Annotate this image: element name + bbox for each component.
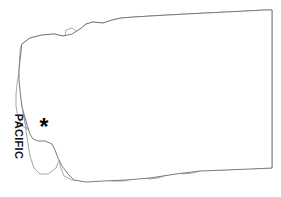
- state-county-map: [0, 0, 281, 197]
- state-border-0: [19, 10, 272, 182]
- washington-county-map-figure: PACIFIC *: [0, 0, 281, 197]
- state-outline-group: [19, 10, 272, 182]
